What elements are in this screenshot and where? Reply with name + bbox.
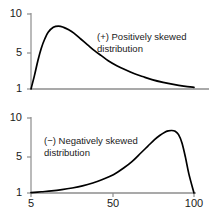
negative-y-tick-label-1: 1	[2, 187, 22, 198]
positive-y-tick-label-10: 10	[2, 8, 22, 19]
negative-y-tick-label-10: 10	[2, 112, 22, 123]
negative-skew-annotation-line2: distribution	[44, 147, 90, 159]
skewness-figure: 10 5 1 (+) Positively skewed distributio…	[0, 0, 210, 208]
positive-y-tick-label-5: 5	[2, 47, 22, 58]
negative-x-tick-label-100: 100	[179, 198, 209, 208]
positive-skew-annotation-line1: (+) Positively skewed	[97, 31, 187, 43]
negative-skew-chart: 10 5 1 5 50 100 (−) Negatively skewed di…	[0, 104, 210, 208]
positive-y-tick-label-1: 1	[2, 83, 22, 94]
positive-skew-chart: 10 5 1 (+) Positively skewed distributio…	[0, 0, 210, 104]
negative-skew-plot	[0, 104, 210, 208]
negative-x-tick-label-50: 50	[98, 198, 128, 208]
negative-x-tick-label-5: 5	[16, 198, 46, 208]
negative-skew-annotation-line1: (−) Negatively skewed	[44, 135, 138, 147]
positive-skew-annotation-line2: distribution	[97, 43, 143, 55]
negative-y-tick-label-5: 5	[2, 151, 22, 162]
